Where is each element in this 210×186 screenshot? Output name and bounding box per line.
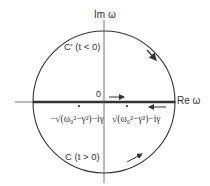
contour-upper-label: C′ (t < 0) bbox=[64, 42, 100, 52]
imaginary-axis-label: Im ω bbox=[94, 10, 116, 20]
pole-left-label: −√(ω₀²−γ²)−iγ bbox=[50, 115, 104, 125]
origin-label: 0 bbox=[96, 90, 101, 99]
contour-diagram bbox=[0, 0, 210, 186]
pole-right bbox=[126, 105, 128, 107]
pole-left bbox=[78, 105, 80, 107]
real-axis-label: Re ω bbox=[177, 96, 200, 106]
pole-right-label: √(ω₀²−γ²)−iγ bbox=[112, 115, 161, 125]
contour-lower-label: C (t > 0) bbox=[65, 152, 100, 162]
arrow-lower-arc bbox=[127, 154, 142, 162]
